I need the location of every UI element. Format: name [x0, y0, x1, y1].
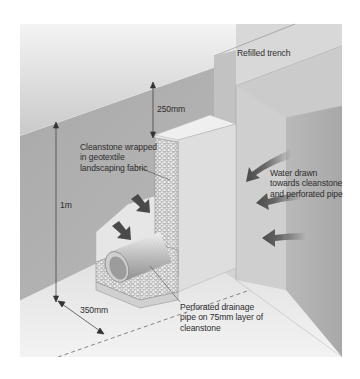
- label-1m: 1m: [60, 200, 72, 210]
- label-250mm: 250mm: [157, 104, 185, 114]
- label-water: Water drawn towards cleanstone and perfo…: [270, 168, 343, 199]
- label-350mm: 350mm: [80, 305, 108, 315]
- label-refilled-trench: Refilled trench: [237, 48, 290, 58]
- label-cleanstone: Cleanstone wrapped in geotextile landsca…: [80, 142, 157, 173]
- label-pipe: Perforated drainage pipe on 75mm layer o…: [180, 302, 263, 333]
